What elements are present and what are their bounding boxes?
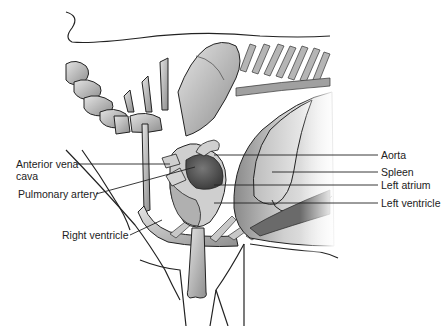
cervical-spine [66,58,168,134]
heart [162,140,226,227]
label-anterior-vena-cava-line2: cava [16,170,78,182]
label-anterior-vena-cava: Anterior vena cava [16,158,78,182]
abdominal-organs [234,88,336,252]
scapula [178,42,240,136]
label-anterior-vena-cava-line1: Anterior vena [16,158,78,170]
label-left-ventricle: Left ventricle [381,197,441,209]
label-spleen: Spleen [381,166,414,178]
label-left-atrium: Left atrium [381,179,431,191]
label-aorta: Aorta [381,149,406,161]
label-pulmonary-artery: Pulmonary artery [18,188,98,200]
label-right-ventricle: Right ventricle [62,229,129,241]
